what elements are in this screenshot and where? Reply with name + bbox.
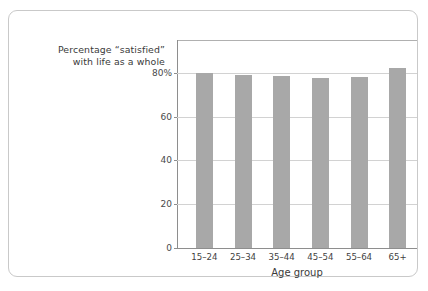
y-tick-label: 40 [161,155,172,165]
plot-top-rule [177,40,417,41]
x-axis-title: Age group [177,267,417,278]
gridline-40 [177,160,417,161]
plot-area: 020406080% 15–2425–3435–4445–5455–6465+ [177,40,417,249]
chart-title-line-2: with life as a whole [15,56,165,68]
bar-55–64 [351,77,368,248]
gridline-80 [177,73,417,74]
x-tick-label-65+: 65+ [389,252,407,262]
x-tick-label-55–64: 55–64 [346,252,372,262]
bar-15–24 [196,73,213,248]
x-tick-label-15–24: 15–24 [191,252,217,262]
y-tick-label: 80% [152,68,172,78]
x-tick-label-25–34: 25–34 [230,252,256,262]
bar-65+ [389,68,406,248]
y-tick-mark [174,73,177,74]
x-tick-label-35–44: 35–44 [269,252,295,262]
x-tick-label-45–54: 45–54 [307,252,333,262]
chart-title-line-1: Percentage “satisfied” [15,44,165,56]
y-tick-mark [174,117,177,118]
chart-title: Percentage “satisfied” with life as a wh… [15,44,165,69]
bar-45–54 [312,78,329,248]
gridline-60 [177,117,417,118]
figure-card: Percentage “satisfied” with life as a wh… [8,10,418,277]
x-axis-line [177,248,417,249]
y-tick-mark [174,248,177,249]
y-tick-label: 0 [166,243,172,253]
y-tick-label: 60 [161,112,172,122]
bar-25–34 [235,75,252,248]
gridline-20 [177,204,417,205]
y-tick-label: 20 [161,199,172,209]
bar-35–44 [273,76,290,248]
y-tick-mark [174,160,177,161]
y-axis-line [177,40,178,249]
y-tick-mark [174,204,177,205]
